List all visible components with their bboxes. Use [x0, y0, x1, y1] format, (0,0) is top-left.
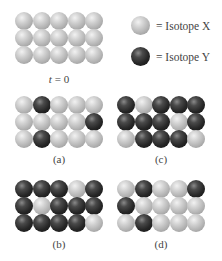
grid-d [117, 180, 205, 232]
isotope-x-sphere-icon [68, 29, 86, 47]
isotope-x-sphere-icon [170, 180, 188, 198]
isotope-x-sphere-icon [15, 96, 33, 114]
isotope-x-sphere-icon [170, 197, 188, 215]
label-d: (d) [131, 238, 191, 250]
isotope-y-sphere-icon [15, 197, 33, 215]
isotope-y-sphere-icon [187, 180, 205, 198]
isotope-x-sphere-icon [15, 29, 33, 47]
isotope-y-sphere-icon [33, 130, 51, 148]
isotope-y-sphere-icon [85, 197, 103, 215]
label-b: (b) [29, 238, 89, 250]
grid-a [15, 96, 103, 148]
isotope-y-sphere-icon [50, 214, 68, 232]
isotope-y-sphere-icon [152, 113, 170, 131]
isotope-y-sphere-icon [152, 96, 170, 114]
isotope-x-sphere-icon [131, 16, 150, 35]
isotope-x-sphere-icon [68, 180, 86, 198]
isotope-x-sphere-icon [68, 113, 86, 131]
isotope-x-sphere-icon [152, 197, 170, 215]
isotope-y-sphere-icon [85, 180, 103, 198]
legend-label-y: = Isotope Y [156, 51, 210, 63]
isotope-y-sphere-icon [135, 180, 153, 198]
isotope-x-sphere-icon [85, 96, 103, 114]
isotope-x-sphere-icon [85, 130, 103, 148]
isotope-x-sphere-icon [117, 180, 135, 198]
isotope-y-sphere-icon [68, 197, 86, 215]
isotope-y-sphere-icon [15, 180, 33, 198]
label-t0-rest: = 0 [52, 73, 69, 85]
isotope-x-sphere-icon [33, 12, 51, 30]
label-t0: t = 0 [29, 73, 89, 85]
isotope-x-sphere-icon [33, 29, 51, 47]
isotope-x-sphere-icon [50, 130, 68, 148]
isotope-x-sphere-icon [68, 96, 86, 114]
isotope-y-sphere-icon [170, 130, 188, 148]
label-c: (c) [131, 153, 191, 165]
isotope-y-sphere-icon [68, 214, 86, 232]
isotope-y-sphere-icon [50, 197, 68, 215]
isotope-x-sphere-icon [50, 46, 68, 64]
isotope-y-sphere-icon [135, 130, 153, 148]
isotope-x-sphere-icon [50, 12, 68, 30]
isotope-x-sphere-icon [15, 46, 33, 64]
label-a: (a) [29, 153, 89, 165]
legend-isotope-y: = Isotope Y [131, 47, 210, 66]
isotope-x-sphere-icon [50, 113, 68, 131]
isotope-y-sphere-icon [131, 47, 150, 66]
isotope-x-sphere-icon [85, 29, 103, 47]
isotope-y-sphere-icon [135, 214, 153, 232]
isotope-x-sphere-icon [50, 96, 68, 114]
isotope-x-sphere-icon [135, 197, 153, 215]
isotope-x-sphere-icon [33, 46, 51, 64]
isotope-x-sphere-icon [170, 214, 188, 232]
isotope-x-sphere-icon [33, 113, 51, 131]
isotope-y-sphere-icon [33, 214, 51, 232]
isotope-x-sphere-icon [50, 29, 68, 47]
isotope-x-sphere-icon [170, 113, 188, 131]
legend-label-x: = Isotope X [156, 20, 210, 32]
isotope-x-sphere-icon [15, 12, 33, 30]
isotope-x-sphere-icon [85, 46, 103, 64]
grid-c [117, 96, 205, 148]
isotope-y-sphere-icon [187, 113, 205, 131]
isotope-x-sphere-icon [68, 46, 86, 64]
isotope-x-sphere-icon [85, 214, 103, 232]
isotope-y-sphere-icon [15, 214, 33, 232]
isotope-x-sphere-icon [135, 96, 153, 114]
isotope-x-sphere-icon [152, 214, 170, 232]
isotope-y-sphere-icon [170, 96, 188, 114]
isotope-x-sphere-icon [68, 12, 86, 30]
isotope-y-sphere-icon [117, 197, 135, 215]
isotope-y-sphere-icon [33, 180, 51, 198]
isotope-y-sphere-icon [85, 113, 103, 131]
legend-isotope-x: = Isotope X [131, 16, 210, 35]
grid-t0 [15, 12, 103, 64]
isotope-x-sphere-icon [68, 130, 86, 148]
isotope-x-sphere-icon [187, 130, 205, 148]
isotope-y-sphere-icon [117, 113, 135, 131]
isotope-x-sphere-icon [33, 197, 51, 215]
isotope-y-sphere-icon [152, 130, 170, 148]
isotope-x-sphere-icon [152, 180, 170, 198]
isotope-x-sphere-icon [187, 214, 205, 232]
isotope-y-sphere-icon [187, 96, 205, 114]
isotope-y-sphere-icon [135, 113, 153, 131]
grid-b [15, 180, 103, 232]
isotope-y-sphere-icon [33, 96, 51, 114]
isotope-x-sphere-icon [15, 113, 33, 131]
isotope-x-sphere-icon [117, 130, 135, 148]
isotope-x-sphere-icon [85, 12, 103, 30]
isotope-x-sphere-icon [15, 130, 33, 148]
isotope-y-sphere-icon [50, 180, 68, 198]
isotope-y-sphere-icon [117, 96, 135, 114]
isotope-x-sphere-icon [117, 214, 135, 232]
isotope-x-sphere-icon [187, 197, 205, 215]
